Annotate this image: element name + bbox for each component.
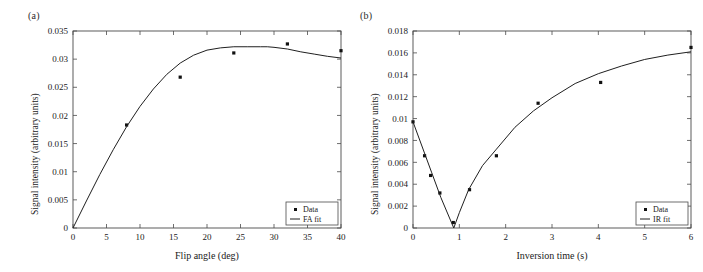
y-tick-label: 0.01 xyxy=(52,167,68,177)
y-tick-label: 0 xyxy=(64,223,69,233)
x-tick-label: 15 xyxy=(169,232,179,242)
fit-curve-ir-fit xyxy=(413,52,691,228)
y-tick-label: 0.025 xyxy=(48,82,69,92)
fit-curve-fa-fit xyxy=(73,47,341,228)
y-tick-label: 0.012 xyxy=(388,92,408,102)
y-tick-label: 0.01 xyxy=(392,114,408,124)
y-tick-label: 0.008 xyxy=(388,136,409,146)
x-tick-label: 3 xyxy=(550,232,555,242)
plot-frame xyxy=(413,31,691,228)
y-tick-label: 0.004 xyxy=(388,179,409,189)
x-tick-label: 30 xyxy=(270,232,280,242)
data-point xyxy=(232,51,235,54)
x-tick-label: 4 xyxy=(596,232,601,242)
x-tick-label: 6 xyxy=(689,232,694,242)
x-tick-label: 35 xyxy=(303,232,313,242)
data-point xyxy=(429,174,432,177)
x-tick-label: 10 xyxy=(136,232,146,242)
y-tick-label: 0.005 xyxy=(48,195,69,205)
data-point xyxy=(179,76,182,79)
panel-a-xlabel: Flip angle (deg) xyxy=(73,250,341,261)
plot-frame xyxy=(73,31,341,228)
x-tick-label: 20 xyxy=(203,232,213,242)
data-point xyxy=(286,42,289,45)
data-point xyxy=(495,154,498,157)
y-tick-label: 0.014 xyxy=(388,70,409,80)
x-tick-label: 40 xyxy=(337,232,347,242)
y-tick-label: 0.03 xyxy=(52,54,68,64)
legend-marker-data xyxy=(294,208,297,211)
panel-a-plot: 051015202530354000.0050.010.0150.020.025… xyxy=(0,0,351,272)
legend-label-fit: FA fit xyxy=(303,215,322,224)
legend-label-data: Data xyxy=(303,205,319,214)
x-tick-label: 0 xyxy=(411,232,416,242)
y-tick-label: 0.02 xyxy=(52,111,68,121)
y-tick-label: 0.006 xyxy=(388,158,409,168)
figure-container: (a) Signal intensity (arbitrary units) 0… xyxy=(0,0,703,272)
y-tick-label: 0.016 xyxy=(388,48,409,58)
y-tick-label: 0.002 xyxy=(388,201,408,211)
y-tick-label: 0.015 xyxy=(48,139,69,149)
data-point xyxy=(599,81,602,84)
y-tick-label: 0 xyxy=(404,223,409,233)
x-tick-label: 0 xyxy=(71,232,76,242)
panel-b: (b) Signal intensity (arbitrary units) 0… xyxy=(352,0,703,272)
x-tick-label: 5 xyxy=(104,232,109,242)
x-tick-label: 1 xyxy=(457,232,462,242)
x-tick-label: 5 xyxy=(642,232,647,242)
panel-b-xlabel: Inversion time (s) xyxy=(413,250,691,261)
y-tick-label: 0.035 xyxy=(48,26,69,36)
x-tick-label: 25 xyxy=(236,232,246,242)
data-point xyxy=(689,46,692,49)
panel-a: (a) Signal intensity (arbitrary units) 0… xyxy=(0,0,351,272)
panel-b-plot: 012345600.0020.0040.0060.0080.010.0120.0… xyxy=(352,0,703,272)
y-tick-label: 0.018 xyxy=(388,26,409,36)
legend-label-data: Data xyxy=(653,205,669,214)
data-point xyxy=(537,102,540,105)
x-tick-label: 2 xyxy=(503,232,508,242)
data-point xyxy=(339,49,342,52)
legend-label-fit: IR fit xyxy=(653,215,671,224)
legend-marker-data xyxy=(644,208,647,211)
